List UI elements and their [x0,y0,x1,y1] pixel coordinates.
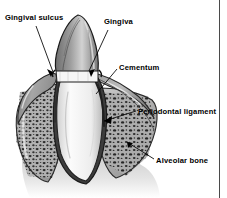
label-cementum: Cementum [119,63,159,72]
label-gingiva: Gingiva [104,17,133,26]
label-periodontal-ligament: Periodontal ligament [138,107,216,116]
label-alveolar-bone: Alveolar bone [156,156,208,165]
right-border-rule [219,0,220,198]
label-gingival-sulcus: Gingival sulcus [5,13,63,22]
tooth-illustration [0,0,227,198]
tooth-anatomy-figure: Gingival sulcus Gingiva Cementum Periodo… [0,0,227,198]
